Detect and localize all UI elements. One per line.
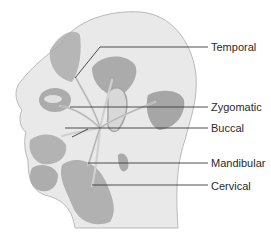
label-mandibular: Mandibular [211, 157, 265, 169]
label-temporal: Temporal [211, 41, 256, 53]
label-buccal: Buccal [211, 122, 244, 134]
eye [44, 95, 62, 103]
label-zygomatic: Zygomatic [211, 101, 262, 113]
facial-nerve-diagram [0, 0, 271, 233]
label-cervical: Cervical [211, 180, 251, 192]
